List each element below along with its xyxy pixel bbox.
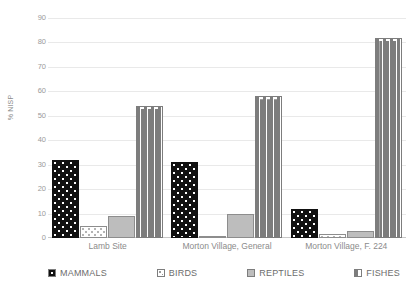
bar-mammals-lamb-site[interactable]: [52, 160, 79, 238]
y-axis-tick-label: 60: [24, 87, 46, 95]
legend-swatch-birds-icon: [157, 269, 165, 277]
bar-fishes-morton-village-general[interactable]: [255, 96, 282, 238]
y-axis-tick-label: 70: [24, 63, 46, 71]
legend-swatch-mammals-icon: [48, 269, 56, 277]
chart-legend: MAMMALSBIRDSREPTILESFISHES: [48, 268, 406, 278]
bar-reptiles-lamb-site[interactable]: [108, 216, 135, 238]
legend-swatch-reptiles-icon: [247, 269, 255, 277]
y-axis-tick-labels: 9080706050403020100: [0, 0, 46, 297]
legend-item-birds[interactable]: BIRDS: [157, 268, 198, 278]
legend-item-reptiles[interactable]: REPTILES: [247, 268, 304, 278]
legend-label: MAMMALS: [60, 268, 107, 278]
y-axis-tick-label: 90: [24, 14, 46, 22]
bar-mammals-morton-village-general[interactable]: [171, 162, 198, 238]
legend-item-fishes[interactable]: FISHES: [354, 268, 400, 278]
bar-birds-morton-village-general[interactable]: [199, 236, 226, 238]
bar-reptiles-morton-village-f-224[interactable]: [347, 231, 374, 238]
plot-area: [48, 18, 406, 238]
legend-label: FISHES: [366, 268, 400, 278]
bar-group-morton-village-general: [167, 18, 286, 238]
bar-groups: [48, 18, 406, 238]
y-axis-tick-label: 0: [24, 234, 46, 242]
bar-group-morton-village-f-224: [287, 18, 406, 238]
bar-fishes-lamb-site[interactable]: [136, 106, 163, 238]
y-axis-tick-label: 30: [24, 161, 46, 169]
bar-birds-morton-village-f-224[interactable]: [319, 234, 346, 238]
legend-label: BIRDS: [169, 268, 198, 278]
y-axis-tick-label: 20: [24, 185, 46, 193]
x-axis-category-label: Morton Village, F. 224: [287, 241, 406, 251]
bar-chart: % NISP 9080706050403020100 Lamb SiteMort…: [0, 0, 412, 297]
legend-label: REPTILES: [259, 268, 304, 278]
legend-swatch-fishes-icon: [354, 269, 362, 277]
x-axis-category-labels: Lamb SiteMorton Village, GeneralMorton V…: [48, 241, 406, 251]
bar-birds-lamb-site[interactable]: [80, 226, 107, 238]
bar-reptiles-morton-village-general[interactable]: [227, 214, 254, 238]
y-axis-tick-label: 80: [24, 38, 46, 46]
bar-fishes-morton-village-f-224[interactable]: [375, 38, 402, 238]
x-axis-category-label: Morton Village, General: [167, 241, 286, 251]
bar-group-lamb-site: [48, 18, 167, 238]
y-axis-tick-label: 10: [24, 210, 46, 218]
y-axis-tick-label: 50: [24, 112, 46, 120]
legend-item-mammals[interactable]: MAMMALS: [48, 268, 107, 278]
x-axis-category-label: Lamb Site: [48, 241, 167, 251]
y-axis-tick-label: 40: [24, 136, 46, 144]
bar-mammals-morton-village-f-224[interactable]: [291, 209, 318, 238]
